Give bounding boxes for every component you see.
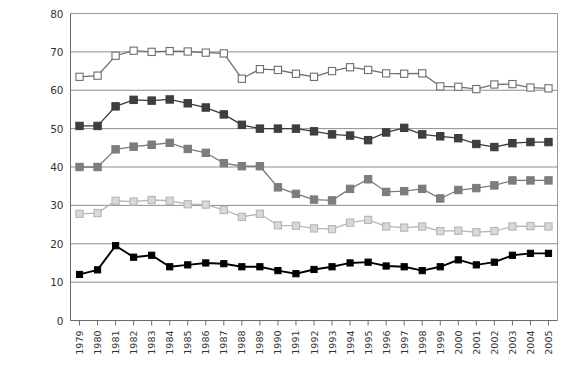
data-point-marker <box>437 195 444 202</box>
data-point-marker <box>400 187 407 194</box>
data-point-marker <box>437 227 444 234</box>
y-tick-label: 30 <box>50 199 63 211</box>
chart-plot: 0102030405060708019791980198119821983198… <box>0 0 570 375</box>
data-point-marker <box>527 222 534 229</box>
data-point-marker <box>221 261 227 267</box>
data-point-marker <box>382 129 389 136</box>
series-1-line <box>80 51 549 89</box>
data-point-marker <box>346 185 353 192</box>
data-point-marker <box>509 81 516 88</box>
data-point-marker <box>203 260 209 266</box>
data-point-marker <box>292 222 299 229</box>
data-point-marker <box>545 250 551 256</box>
data-point-marker <box>166 139 173 146</box>
data-point-marker <box>257 264 263 270</box>
x-tick-label: 2004 <box>525 331 536 355</box>
x-tick-label: 1984 <box>164 331 175 355</box>
x-tick-label: 1981 <box>110 331 121 355</box>
data-point-marker <box>166 48 173 55</box>
data-point-marker <box>491 227 498 234</box>
data-point-marker <box>310 128 317 135</box>
data-point-marker <box>185 262 191 268</box>
data-point-marker <box>437 133 444 140</box>
y-tick-label: 50 <box>50 123 63 135</box>
y-tick-label: 0 <box>57 315 64 327</box>
data-point-marker <box>328 131 335 138</box>
data-point-marker <box>419 70 426 77</box>
data-point-marker <box>238 213 245 220</box>
x-tick-label: 1982 <box>128 331 139 355</box>
data-point-marker <box>149 252 155 258</box>
data-point-marker <box>310 196 317 203</box>
data-point-marker <box>76 210 83 217</box>
data-point-marker <box>328 67 335 74</box>
data-point-marker <box>167 264 173 270</box>
data-point-marker <box>238 121 245 128</box>
data-point-marker <box>112 243 118 249</box>
data-point-marker <box>311 266 317 272</box>
data-point-marker <box>184 145 191 152</box>
data-point-marker <box>148 196 155 203</box>
data-point-marker <box>527 177 534 184</box>
data-point-marker <box>419 223 426 230</box>
data-point-marker <box>419 268 425 274</box>
data-point-marker <box>527 138 534 145</box>
data-point-marker <box>274 66 281 73</box>
data-point-marker <box>473 184 480 191</box>
y-tick-label: 40 <box>50 161 63 173</box>
data-point-marker <box>347 260 353 266</box>
data-point-marker <box>220 206 227 213</box>
data-point-marker <box>509 140 516 147</box>
gridlines <box>71 14 558 283</box>
x-tick-label: 1999 <box>435 331 446 355</box>
y-tick-label: 70 <box>50 46 63 58</box>
data-point-marker <box>473 229 480 236</box>
data-point-marker <box>365 66 372 73</box>
data-point-marker <box>292 125 299 132</box>
data-point-marker <box>473 140 480 147</box>
data-point-marker <box>94 122 101 129</box>
x-tick-label: 2001 <box>471 331 482 355</box>
x-tick-label: 1995 <box>363 331 374 355</box>
data-point-marker <box>364 176 371 183</box>
x-tick-label: 1987 <box>218 331 229 355</box>
x-tick-label: 1979 <box>74 331 85 355</box>
data-point-marker <box>455 227 462 234</box>
data-point-marker <box>527 84 534 91</box>
data-point-marker <box>274 184 281 191</box>
x-tick-label: 1985 <box>182 331 193 355</box>
data-point-marker <box>148 97 155 104</box>
x-tick-label: 2005 <box>543 331 554 355</box>
x-tick-label: 1992 <box>309 331 320 355</box>
data-point-marker <box>166 197 173 204</box>
data-point-marker <box>419 185 426 192</box>
data-point-marker <box>76 163 83 170</box>
data-point-marker <box>328 226 335 233</box>
series-3-markers <box>76 139 552 204</box>
series-1-polyline <box>80 51 549 89</box>
x-tick-labels: 1979198019811982198319841985198619871988… <box>74 321 554 355</box>
data-point-marker <box>292 190 299 197</box>
data-point-marker <box>94 72 101 79</box>
x-tick-label: 1986 <box>200 331 211 355</box>
data-point-marker <box>130 198 137 205</box>
data-point-marker <box>527 250 533 256</box>
data-point-marker <box>346 64 353 71</box>
data-point-marker <box>310 73 317 80</box>
data-point-marker <box>238 75 245 82</box>
y-tick-labels: 01020304050607080 <box>50 8 63 327</box>
data-point-marker <box>455 83 462 90</box>
data-point-marker <box>94 209 101 216</box>
data-point-marker <box>491 182 498 189</box>
data-point-marker <box>130 96 137 103</box>
x-tick-label: 1991 <box>290 331 301 355</box>
x-tick-label: 1994 <box>345 331 356 355</box>
data-point-marker <box>275 268 281 274</box>
data-point-marker <box>509 252 515 258</box>
data-point-marker <box>545 85 552 92</box>
data-point-marker <box>220 111 227 118</box>
data-point-marker <box>238 163 245 170</box>
x-tick-label: 1997 <box>399 331 410 355</box>
data-point-marker <box>383 70 390 77</box>
data-point-marker <box>112 52 119 59</box>
